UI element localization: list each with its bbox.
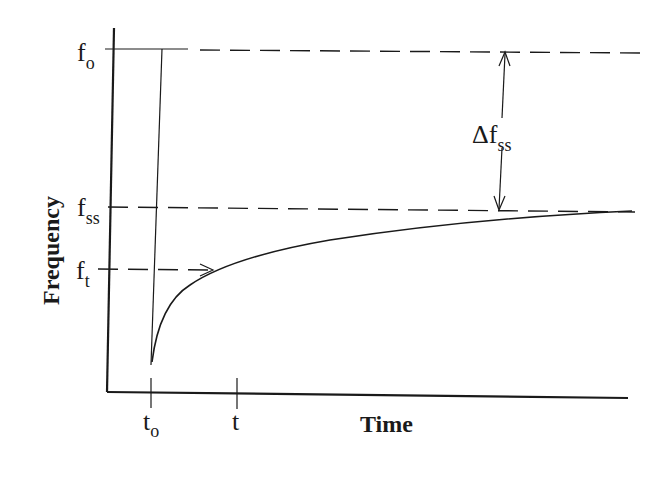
x-axis — [107, 392, 628, 398]
delta-arrow-upper — [502, 54, 505, 118]
label-delta-f-ss: Δfss — [472, 120, 511, 155]
delta-arrow-lower — [499, 148, 502, 209]
frequency-time-diagram: fo fss ft Δfss to t Time Frequency — [0, 0, 669, 481]
fss-dashed-line — [108, 207, 635, 212]
label-t-o: to — [143, 407, 159, 441]
label-f-ss: fss — [77, 193, 100, 228]
label-f-t: ft — [76, 256, 90, 291]
fo-dashed-line — [200, 50, 640, 53]
y-axis-title: Frequency — [38, 196, 64, 305]
label-f-o: fo — [77, 38, 95, 73]
x-axis-title: Time — [360, 411, 413, 437]
y-axis — [107, 28, 114, 392]
frequency-recovery-curve — [152, 211, 632, 362]
label-t: t — [232, 407, 240, 436]
